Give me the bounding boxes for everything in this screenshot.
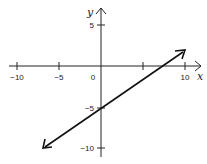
x-tick-label: 10 [181,73,190,82]
y-axis-label: y [86,6,94,19]
x-tick-label: −10 [10,73,24,82]
x-axis-label: x [197,70,204,83]
y-tick-label: 5 [90,21,95,30]
x-tick-label: −5 [54,73,64,82]
y-tick-label: −10 [80,144,94,153]
coordinate-plane: −10 −5 0 10 5 −5 −10 x y [0,0,207,164]
origin-label: 0 [91,73,96,82]
y-tick-label: −5 [85,104,95,113]
